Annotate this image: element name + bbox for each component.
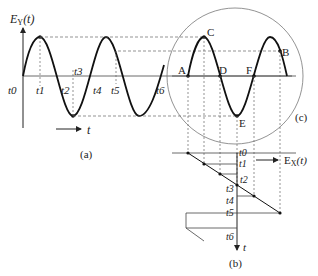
t-axis-label: t bbox=[243, 241, 247, 253]
label-t1: t1 bbox=[36, 84, 45, 96]
label-f: F bbox=[246, 64, 252, 76]
ex-axis-label: EX(t) bbox=[284, 154, 307, 168]
b-label-t1: t1 bbox=[239, 158, 247, 169]
label-e: E bbox=[239, 117, 246, 129]
sine-wave-c bbox=[188, 37, 287, 116]
label-b: B bbox=[282, 46, 289, 58]
b-label-t5: t5 bbox=[226, 207, 234, 218]
label-c: C bbox=[207, 26, 214, 38]
projection-lines-vertical bbox=[188, 37, 280, 213]
b-label-t4: t4 bbox=[226, 195, 234, 206]
label-t6: t6 bbox=[156, 84, 165, 96]
b-label-t0: t0 bbox=[239, 147, 247, 158]
b-label-t3: t3 bbox=[226, 183, 234, 194]
trace-b bbox=[188, 153, 280, 213]
label-t4: t4 bbox=[93, 84, 102, 96]
label-t0: t0 bbox=[8, 84, 17, 96]
oscilloscope-diagram: EY(t) t0 t1 t2 t3 t4 t5 t6 t (a) A B C D… bbox=[0, 0, 318, 276]
label-t2: t2 bbox=[61, 84, 70, 96]
ey-axis-label: EY(t) bbox=[9, 12, 34, 27]
diagram-canvas: EY(t) t0 t1 t2 t3 t4 t5 t6 t (a) A B C D… bbox=[0, 0, 318, 276]
panel-a: EY(t) t0 t1 t2 t3 t4 t5 t6 t (a) bbox=[8, 12, 292, 161]
label-t5: t5 bbox=[111, 84, 120, 96]
b-label-t2: t2 bbox=[240, 174, 248, 185]
caption-c: (c) bbox=[295, 111, 308, 124]
caption-b: (b) bbox=[229, 257, 242, 270]
label-d: D bbox=[219, 64, 227, 76]
time-arrow-label: t bbox=[87, 123, 91, 137]
label-a: A bbox=[178, 64, 186, 76]
caption-a: (a) bbox=[80, 148, 93, 161]
b-label-t6: t6 bbox=[226, 231, 234, 242]
label-t3: t3 bbox=[74, 65, 83, 77]
sine-wave-a bbox=[23, 37, 164, 116]
panel-b: EX(t) t0 t1 t2 t3 t4 t5 t6 t (b) bbox=[172, 147, 307, 270]
